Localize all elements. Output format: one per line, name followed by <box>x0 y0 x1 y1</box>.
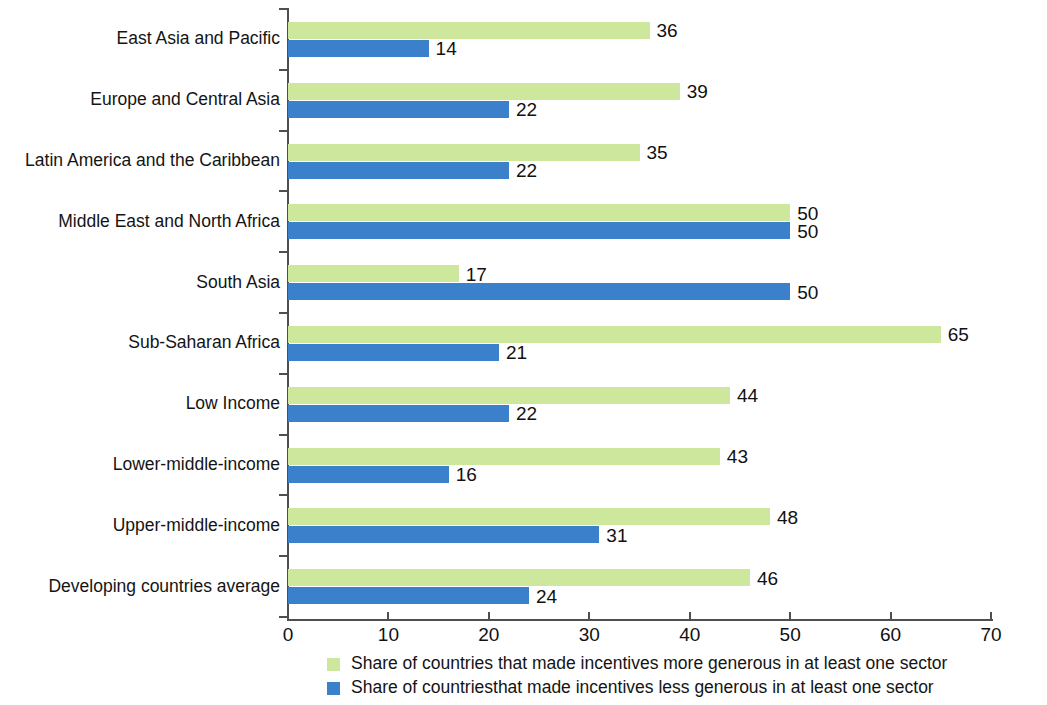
category-label-9: Developing countries average <box>48 578 280 596</box>
x-axis-tick-label: 10 <box>378 624 399 646</box>
bar-value-more-5: 65 <box>948 325 969 344</box>
x-axis-tick-label: 30 <box>579 624 600 646</box>
bar-value-less-4: 50 <box>797 283 818 302</box>
bar-value-more-4: 17 <box>466 265 487 284</box>
y-axis-tick <box>279 190 288 192</box>
category-label-4: South Asia <box>196 274 280 292</box>
bar-less-7 <box>288 466 449 483</box>
bar-value-less-5: 21 <box>506 343 527 362</box>
bar-more-8 <box>288 508 770 525</box>
x-axis-tick-label: 70 <box>980 624 1001 646</box>
x-axis-tick-label: 60 <box>880 624 901 646</box>
y-axis-tick <box>279 312 288 314</box>
bar-less-9 <box>288 587 529 604</box>
x-axis-tick-label: 50 <box>780 624 801 646</box>
y-axis-tick <box>279 251 288 253</box>
bar-value-less-8: 31 <box>606 526 627 545</box>
bar-less-6 <box>288 405 509 422</box>
y-axis-tick <box>279 130 288 132</box>
bar-value-less-3: 50 <box>797 222 818 241</box>
bar-more-0 <box>288 22 650 39</box>
category-label-8: Upper-middle-income <box>113 517 280 535</box>
bar-less-4 <box>288 283 790 300</box>
category-label-0: East Asia and Pacific <box>117 30 280 48</box>
bars-layer <box>288 10 991 618</box>
x-axis-tick-label: 20 <box>478 624 499 646</box>
bar-more-7 <box>288 448 720 465</box>
bar-value-more-7: 43 <box>727 447 748 466</box>
legend-label-1: Share of countriesthat made incentives l… <box>351 679 934 697</box>
bar-more-6 <box>288 387 730 404</box>
category-label-3: Middle East and North Africa <box>58 213 280 231</box>
y-axis-tick <box>279 434 288 436</box>
bar-less-2 <box>288 162 509 179</box>
y-axis-tick <box>279 69 288 71</box>
bar-value-more-2: 35 <box>647 143 668 162</box>
bar-value-more-3: 50 <box>797 204 818 223</box>
bar-more-2 <box>288 144 640 161</box>
bar-less-5 <box>288 344 499 361</box>
category-label-7: Lower-middle-income <box>113 456 280 474</box>
bar-less-8 <box>288 526 599 543</box>
bar-more-5 <box>288 326 941 343</box>
bar-value-less-1: 22 <box>516 100 537 119</box>
y-axis-tick <box>279 373 288 375</box>
bar-value-less-2: 22 <box>516 161 537 180</box>
bar-value-more-9: 46 <box>757 569 778 588</box>
legend-label-0: Share of countries that made incentives … <box>351 655 947 673</box>
chart-legend: Share of countries that made incentives … <box>327 652 947 700</box>
bar-less-1 <box>288 101 509 118</box>
x-axis-line <box>287 619 993 621</box>
bar-more-1 <box>288 83 680 100</box>
bar-value-more-0: 36 <box>657 21 678 40</box>
bar-value-more-1: 39 <box>687 82 708 101</box>
x-axis-tick-label: 40 <box>679 624 700 646</box>
y-axis-tick <box>279 494 288 496</box>
category-label-2: Latin America and the Caribbean <box>25 152 280 170</box>
category-label-5: Sub-Saharan Africa <box>128 334 280 352</box>
y-axis-tick <box>279 555 288 557</box>
x-axis-tick-label: 0 <box>283 624 294 646</box>
legend-item-0[interactable]: Share of countries that made incentives … <box>327 652 947 676</box>
bar-less-3 <box>288 222 790 239</box>
bar-value-more-8: 48 <box>777 508 798 527</box>
bar-chart: 010203040506070 East Asia and PacificEur… <box>0 0 1047 705</box>
y-axis-tick <box>279 8 288 10</box>
bar-more-4 <box>288 265 459 282</box>
bar-value-less-7: 16 <box>456 465 477 484</box>
bar-less-0 <box>288 40 429 57</box>
category-label-6: Low Income <box>186 395 280 413</box>
legend-swatch-less-icon <box>327 682 340 695</box>
bar-more-3 <box>288 204 790 221</box>
bar-value-less-0: 14 <box>436 39 457 58</box>
legend-item-1[interactable]: Share of countriesthat made incentives l… <box>327 676 947 700</box>
bar-value-more-6: 44 <box>737 386 758 405</box>
bar-value-less-6: 22 <box>516 404 537 423</box>
bar-value-less-9: 24 <box>536 587 557 606</box>
legend-swatch-more-icon <box>327 658 340 671</box>
bar-more-9 <box>288 569 750 586</box>
category-label-1: Europe and Central Asia <box>90 91 280 109</box>
